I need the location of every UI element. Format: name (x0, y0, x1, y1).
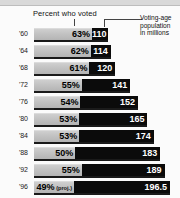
percent-value-label: 53% (34, 114, 77, 124)
population-leader-bracket (104, 19, 131, 27)
year-label: '96 (0, 183, 28, 190)
bar-group: 61%120 (34, 62, 115, 74)
bar-group: 63%110 (34, 28, 108, 40)
population-value-label: 189 (82, 165, 162, 175)
chart-row: '9649% (proj.)196.5 (0, 180, 180, 197)
bar-group: 53%174 (34, 130, 154, 142)
chart-row: '6861%120 (0, 61, 180, 78)
bar-group: 49% (proj.)196.5 (34, 181, 170, 193)
chart-row: '9255%189 (0, 163, 180, 180)
percent-value-label: 49% (proj.) (34, 182, 72, 192)
population-value-label: 120 (89, 63, 112, 73)
population-value-label: 152 (80, 97, 135, 107)
percent-value-label: 63% (34, 29, 90, 39)
chart-row: '8850%183 (0, 146, 180, 163)
bar-group: 50%183 (34, 147, 160, 159)
bar-group: 55%141 (34, 79, 130, 91)
chart-rows: '6063%110'6462%114'6861%120'7255%141'765… (0, 27, 180, 197)
chart-row: '6462%114 (0, 44, 180, 61)
percent-leader-tick (74, 19, 75, 26)
population-value-label: 114 (91, 46, 108, 56)
bar-group: 53%165 (34, 113, 147, 125)
bar-group: 62%114 (34, 45, 111, 57)
population-label-line1: Voting-age (140, 14, 172, 21)
year-label: '84 (0, 132, 28, 139)
chart-row: '8053%165 (0, 112, 180, 129)
bar-group: 55%189 (34, 164, 165, 176)
chart-row: '7654%152 (0, 95, 180, 112)
year-label: '92 (0, 166, 28, 173)
chart-row: '6063%110 (0, 27, 180, 44)
top-rule (0, 0, 180, 6)
percent-value-label: 55% (34, 165, 80, 175)
percent-value-label: 62% (34, 46, 89, 56)
percent-value-label: 50% (34, 148, 73, 158)
population-value-label: 141 (82, 80, 128, 90)
population-value-label: 196.5 (74, 182, 167, 192)
year-label: '76 (0, 98, 28, 105)
chart-row: '8453%174 (0, 129, 180, 146)
year-label: '64 (0, 47, 28, 54)
percent-value-label: 61% (34, 63, 87, 73)
chart-row: '7255%141 (0, 78, 180, 95)
voter-turnout-chart: Percent who voted Voting-age population … (0, 0, 180, 198)
year-label: '72 (0, 81, 28, 88)
percent-axis-label: Percent who voted (33, 9, 97, 18)
percent-value-label: 53% (34, 131, 77, 141)
population-value-label: 174 (79, 131, 151, 141)
percent-value-label: 54% (34, 97, 78, 107)
population-value-label: 110 (92, 29, 105, 39)
population-value-label: 183 (75, 148, 157, 158)
year-label: '60 (0, 30, 28, 37)
population-value-label: 165 (79, 114, 144, 124)
projection-note: (proj.) (55, 185, 72, 191)
year-label: '80 (0, 115, 28, 122)
percent-value-label: 55% (34, 80, 80, 90)
bar-group: 54%152 (34, 96, 138, 108)
year-label: '88 (0, 149, 28, 156)
year-label: '68 (0, 64, 28, 71)
